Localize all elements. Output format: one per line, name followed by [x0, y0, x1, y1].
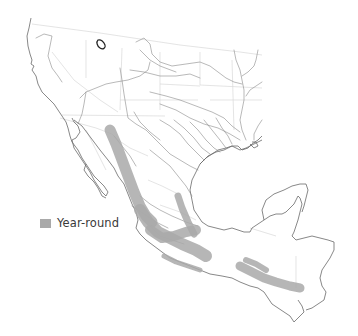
legend-swatch-year-round — [40, 219, 51, 228]
coastline — [27, 18, 334, 322]
year-round-range — [110, 130, 300, 288]
range-map: Year-round — [0, 0, 358, 336]
outlier-record — [97, 40, 105, 49]
map-canvas — [0, 0, 358, 336]
legend: Year-round — [40, 218, 119, 230]
legend-label-year-round: Year-round — [57, 218, 119, 230]
